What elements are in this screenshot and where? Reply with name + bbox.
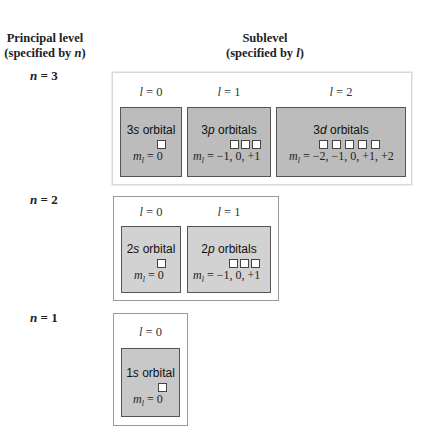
orbital-square [252,140,261,149]
orbital-square [230,140,239,149]
orbital-3d-box: 3d orbitals ml = −2, −1, 0, +1, +2 [276,107,406,177]
orbital-2p-squares [229,259,260,268]
orbital-2s-ml: ml = 0 [134,268,164,284]
orbital-2p-box: 2p orbitals ml = −1, 0, +1 [187,226,271,293]
orbital-3d-squares [319,140,380,149]
orbital-square [241,140,250,149]
orbital-3d-name: 3d orbitals [277,123,405,137]
sublevel-subtitle: (specified by l) [205,46,325,61]
principal-level-header: Principal level (specified by n) [0,31,90,61]
sublevel-3p-l-label: l = 1 [187,85,271,100]
orbital-3s-ml: ml = 0 [133,149,163,165]
sublevel-header: Sublevel (specified by l) [205,31,325,61]
orbital-1s-squares [158,383,167,392]
orbital-square [251,259,260,268]
principal-level-title: Principal level [0,31,90,46]
sublevel-3d-l-label: l = 2 [276,85,406,100]
orbital-2s-box: 2s orbital ml = 0 [121,226,181,293]
orbital-square [319,140,328,149]
sublevel-title: Sublevel [205,31,325,46]
principal-level-n2-label: n = 2 [30,192,58,208]
orbital-2s-name: 2s orbital [122,242,180,256]
orbital-2p-ml: ml = −1, 0, +1 [193,268,260,284]
principal-level-subtitle: (specified by n) [0,46,90,61]
orbital-1s-name: 1s orbital [122,366,179,380]
orbital-3d-ml: ml = −2, −1, 0, +1, +2 [289,149,394,165]
principal-level-n1-label: n = 1 [30,310,58,326]
orbital-square [371,140,380,149]
orbital-3p-box: 3p orbitals ml = −1, 0, +1 [187,107,271,177]
sublevel-1s-l-label: l = 0 [121,325,180,340]
principal-level-n3-label: n = 3 [30,68,58,84]
orbital-square [158,383,167,392]
orbital-square [332,140,341,149]
orbital-1s-box: 1s orbital ml = 0 [121,348,180,417]
orbital-2p-name: 2p orbitals [188,242,270,256]
orbital-square [345,140,354,149]
orbital-1s-ml: ml = 0 [133,392,163,408]
orbital-square [157,259,166,268]
orbital-square [358,140,367,149]
orbital-3s-box: 3s orbital ml = 0 [120,107,182,177]
orbital-3p-name: 3p orbitals [188,123,270,137]
sublevel-2s-l-label: l = 0 [121,205,181,220]
orbital-3p-squares [230,140,261,149]
orbital-square [157,140,166,149]
orbital-2s-squares [157,259,166,268]
orbital-3s-name: 3s orbital [121,123,181,137]
sublevel-3s-l-label: l = 0 [120,85,182,100]
orbital-square [229,259,238,268]
orbital-3p-ml: ml = −1, 0, +1 [193,149,260,165]
orbital-3s-squares [157,140,166,149]
orbital-square [240,259,249,268]
sublevel-2p-l-label: l = 1 [187,205,271,220]
